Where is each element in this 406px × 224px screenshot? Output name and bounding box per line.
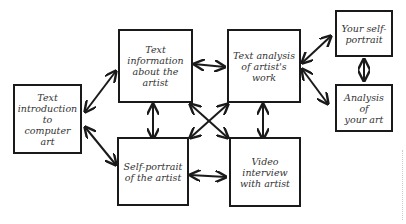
node-text-analysis-work: Text analysis of artist's work	[227, 29, 301, 103]
node-text-information-artist: Text information about the artist	[118, 29, 193, 103]
edge-selfportrait-video	[190, 175, 226, 177]
node-analysis-your-art: Analysis of your art	[335, 84, 393, 132]
node-text-introduction: Text introduction to computer art	[13, 84, 82, 154]
diagram-canvas: Text introduction to computer art Text i…	[0, 0, 406, 224]
edge-analysis-yourselfportrait	[302, 36, 331, 63]
node-video-interview: Video interview with artist	[229, 137, 301, 207]
page-edge-dotted-line	[402, 150, 403, 220]
node-self-portrait-artist: Self-portrait of the artist	[117, 137, 189, 206]
node-your-self-portrait: Your self- portrait	[335, 10, 393, 57]
edge-intro-info	[85, 71, 116, 112]
edge-info-analysis	[194, 64, 225, 67]
edge-analysis-youranalysis	[302, 69, 328, 104]
edge-intro-selfportrait	[85, 127, 116, 165]
